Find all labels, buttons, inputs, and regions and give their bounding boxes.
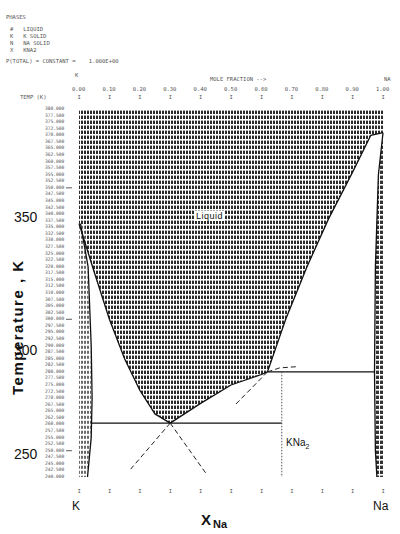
kna2-label: KNa2: [286, 437, 309, 450]
bottom-right-na: Na: [373, 499, 388, 513]
y-major-350: 350: [14, 209, 37, 225]
y-axis-title: Temperature , K: [9, 259, 26, 395]
liquid-label: Liquid: [194, 211, 225, 221]
metastable-kna2-ext: [268, 367, 298, 372]
na-solid-region: [375, 133, 384, 477]
bottom-left-k: K: [72, 499, 80, 513]
phase-diagram-plot: [0, 0, 400, 534]
metastable-kna2-liquidus: [170, 423, 207, 474]
metastable-k-liquidus: [131, 423, 171, 469]
x-axis-title: XNa: [201, 511, 227, 530]
k-solid-region: [79, 224, 91, 477]
x-axis-title-sub: Na: [213, 518, 227, 530]
y-major-250: 250: [14, 446, 37, 462]
liquid-region: [79, 109, 383, 423]
x-axis-title-main: X: [201, 511, 211, 528]
